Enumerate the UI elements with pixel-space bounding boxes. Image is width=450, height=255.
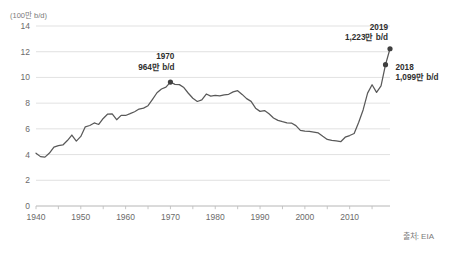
x-tick-label: 1990 bbox=[243, 212, 277, 222]
y-tick-label: 6 bbox=[6, 124, 30, 134]
x-tick-label: 1950 bbox=[64, 212, 98, 222]
y-tick-label: 0 bbox=[6, 201, 30, 211]
y-tick-label: 10 bbox=[6, 72, 30, 82]
y-tick-label: 12 bbox=[6, 47, 30, 57]
x-tick-label: 1970 bbox=[153, 212, 187, 222]
annotation-2018-year: 2018 bbox=[396, 63, 450, 74]
chart-container: (100만 b/d) 02468101214 19401950196019701… bbox=[0, 0, 450, 255]
x-tick-label: 2000 bbox=[288, 212, 322, 222]
y-tick-label: 2 bbox=[6, 175, 30, 185]
y-tick-label: 8 bbox=[6, 98, 30, 108]
annotation-2018: 2018 1,099만 b/d bbox=[396, 63, 450, 84]
x-tick-label: 2010 bbox=[333, 212, 367, 222]
annotation-2019: 2019 1,223만 b/d bbox=[308, 23, 388, 44]
annotation-2019-value: 1,223만 b/d bbox=[308, 33, 388, 44]
x-tick-label: 1960 bbox=[109, 212, 143, 222]
annotation-1970: 1970 964만 b/d bbox=[104, 52, 174, 73]
source-note: 출처: EIA bbox=[403, 230, 434, 241]
y-tick-label: 4 bbox=[6, 150, 30, 160]
annotation-2018-value: 1,099만 b/d bbox=[396, 73, 450, 84]
annotation-1970-year: 1970 bbox=[104, 52, 174, 63]
annotation-2019-year: 2019 bbox=[308, 23, 388, 34]
x-tick-label: 1980 bbox=[198, 212, 232, 222]
x-tick-label: 1940 bbox=[19, 212, 53, 222]
y-tick-label: 14 bbox=[6, 21, 30, 31]
annotation-1970-value: 964만 b/d bbox=[104, 63, 174, 74]
